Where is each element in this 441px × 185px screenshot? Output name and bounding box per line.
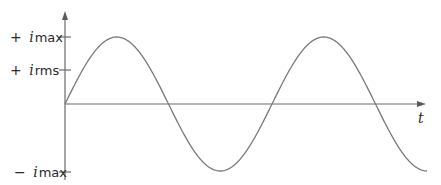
- x-axis-label-t: t: [418, 110, 424, 126]
- label-imax-pos: + imax: [10, 29, 63, 45]
- label-imax-neg: − imax: [14, 164, 67, 180]
- y-axis-arrow-icon: [62, 11, 68, 20]
- label-irms-pos: + irms: [10, 62, 59, 78]
- sine-wave-diagram: + imax + irms − imax t: [0, 0, 441, 185]
- x-axis-arrow-icon: [417, 101, 426, 107]
